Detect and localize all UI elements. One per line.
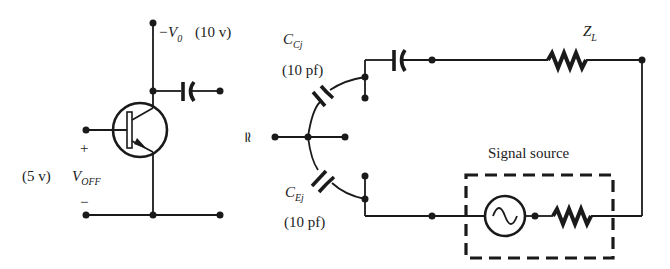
collector-open-node xyxy=(362,95,369,102)
input-voltage-value: (5 v) xyxy=(22,168,51,185)
input-minus-sign: − xyxy=(80,194,88,210)
base-input-node xyxy=(83,127,90,134)
input-voltage-label: VOFF xyxy=(72,168,102,187)
top-node xyxy=(429,57,436,64)
source-internal-node xyxy=(532,213,539,220)
emitter-node xyxy=(150,212,157,219)
equivalence-symbol: ≃ xyxy=(240,131,256,144)
base-terminal-right-node xyxy=(342,134,349,141)
cc-value: (10 pf) xyxy=(282,62,323,79)
cc-label: CCj xyxy=(283,31,303,50)
ce-label: CEj xyxy=(285,184,304,203)
equivalent-circuit: CCj (10 pf) CEj (10 pf) ZL Signal source xyxy=(272,23,646,258)
load-resistor-icon xyxy=(548,53,586,68)
emitter-junction-capacitor-icon xyxy=(312,171,334,192)
signal-source-label: Signal source xyxy=(488,145,570,161)
load-label: ZL xyxy=(583,23,597,43)
base-terminal-left-node xyxy=(272,134,279,141)
supply-voltage-value: (10 v) xyxy=(195,24,231,41)
source-resistor-icon xyxy=(553,209,591,224)
bottom-node xyxy=(429,213,436,220)
ground-right-node xyxy=(217,212,224,219)
transistor-icon xyxy=(113,103,167,215)
ac-source-icon xyxy=(485,196,525,236)
circuit-diagram: −V0 (10 v) + − (5 v) VOFF ≃ xyxy=(0,0,670,269)
ground-left-node xyxy=(83,212,90,219)
supply-node xyxy=(150,20,157,27)
input-plus-sign: + xyxy=(80,140,88,156)
ce-value: (10 pf) xyxy=(284,214,325,231)
emitter-open-node xyxy=(362,173,369,180)
transistor-circuit: −V0 (10 v) + − (5 v) VOFF xyxy=(22,20,231,219)
output-node xyxy=(217,88,224,95)
supply-voltage-label: −V0 xyxy=(158,24,182,44)
